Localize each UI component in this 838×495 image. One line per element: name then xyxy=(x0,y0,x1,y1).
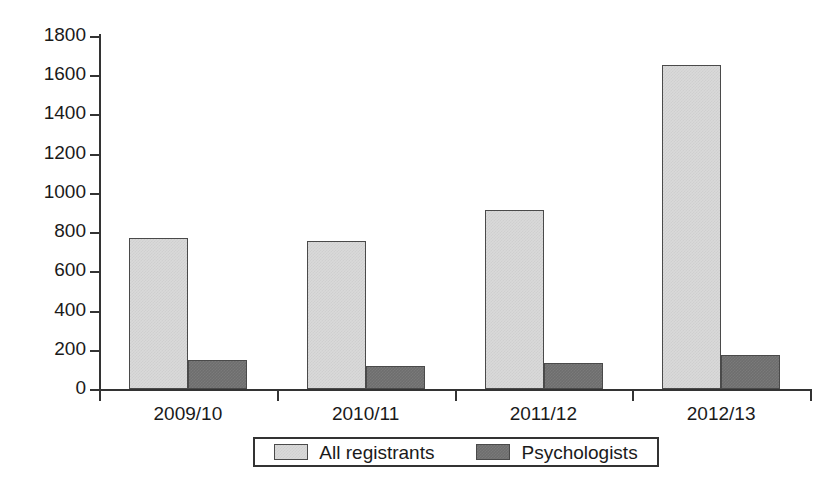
x-axis-category-label: 2012/13 xyxy=(632,403,810,425)
x-axis-tick-mark xyxy=(99,391,101,401)
legend-item: All registrants xyxy=(274,442,434,463)
bar-all-registrants xyxy=(307,241,366,389)
y-axis-tick-label: 800 xyxy=(54,221,86,241)
bar-psychologists xyxy=(188,360,247,389)
y-axis-tick-mark xyxy=(90,114,99,116)
y-axis-tick-label: 1400 xyxy=(44,103,86,123)
x-axis-category-label: 2010/11 xyxy=(277,403,455,425)
y-axis-tick-label: 200 xyxy=(54,339,86,359)
light-gray-swatch xyxy=(274,444,308,460)
bar-psychologists xyxy=(544,363,603,389)
bar-chart-figure: 180016001400120010008006004002000 2009/1… xyxy=(0,0,838,495)
y-axis-tick-mark xyxy=(90,389,99,391)
y-axis-tick-label: 1000 xyxy=(44,182,86,202)
bar-psychologists xyxy=(366,366,425,389)
x-axis-category-label: 2009/10 xyxy=(99,403,277,425)
bar-all-registrants xyxy=(485,210,544,389)
y-axis-tick-label: 1800 xyxy=(44,25,86,45)
legend-item: Psychologists xyxy=(476,442,637,463)
y-axis-tick-label: 1600 xyxy=(44,64,86,84)
dark-gray-swatch xyxy=(476,444,510,460)
x-axis-tick-mark xyxy=(455,391,457,401)
y-axis-tick-mark xyxy=(90,75,99,77)
x-axis-tick-mark xyxy=(277,391,279,401)
bar-all-registrants xyxy=(129,238,188,389)
y-axis-tick-mark xyxy=(90,311,99,313)
y-axis-tick-mark xyxy=(90,154,99,156)
legend-item-label: All registrants xyxy=(319,442,434,463)
chart-legend: All registrantsPsychologists xyxy=(253,437,659,467)
y-axis-tick-label: 400 xyxy=(54,300,86,320)
x-axis-tick-mark xyxy=(810,391,812,401)
plot-area: 180016001400120010008006004002000 xyxy=(99,36,810,389)
bar-psychologists xyxy=(721,355,780,389)
legend-item-label: Psychologists xyxy=(521,442,637,463)
y-axis-tick-mark xyxy=(90,36,99,38)
bar-all-registrants xyxy=(662,65,721,389)
y-axis-tick-mark xyxy=(90,232,99,234)
y-axis-tick-label: 0 xyxy=(75,378,86,398)
y-axis-tick-label: 600 xyxy=(54,260,86,280)
x-axis-tick-mark xyxy=(632,391,634,401)
y-axis-tick-mark xyxy=(90,271,99,273)
y-axis-tick-mark xyxy=(90,350,99,352)
x-axis-category-label: 2011/12 xyxy=(455,403,633,425)
y-axis-tick-label: 1200 xyxy=(44,143,86,163)
y-axis-tick-mark xyxy=(90,193,99,195)
